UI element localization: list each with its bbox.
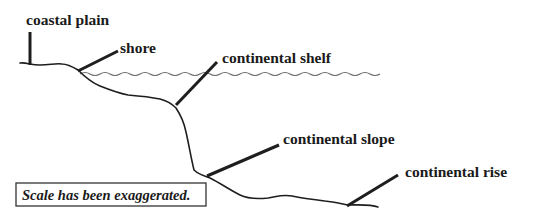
continental-shelf-label: continental shelf [222, 49, 332, 66]
continental-shelf-leader [176, 62, 217, 105]
scale-note-text: Scale has been exaggerated. [22, 187, 190, 203]
continental-rise-leader [347, 175, 398, 206]
ocean-floor-profile-diagram: coastal plain shore continental shelf co… [0, 0, 543, 221]
continental-slope-label: continental slope [283, 130, 395, 147]
scale-note: Scale has been exaggerated. [16, 183, 206, 206]
continental-rise-label: continental rise [405, 163, 507, 180]
shore-leader [78, 51, 118, 71]
shore-label: shore [120, 39, 156, 56]
continental-slope-leader [207, 145, 279, 176]
water-surface-line [80, 73, 380, 76]
coastal-plain-label: coastal plain [26, 11, 109, 28]
